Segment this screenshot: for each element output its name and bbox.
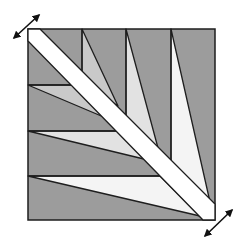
quilt-block-svg bbox=[0, 0, 241, 242]
quilt-diagram bbox=[0, 0, 241, 242]
